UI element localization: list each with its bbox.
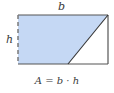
base-label: b [58, 1, 65, 12]
area-formula: A = b · h [0, 75, 114, 87]
shaded-region [18, 15, 108, 64]
height-label: h [6, 34, 13, 45]
